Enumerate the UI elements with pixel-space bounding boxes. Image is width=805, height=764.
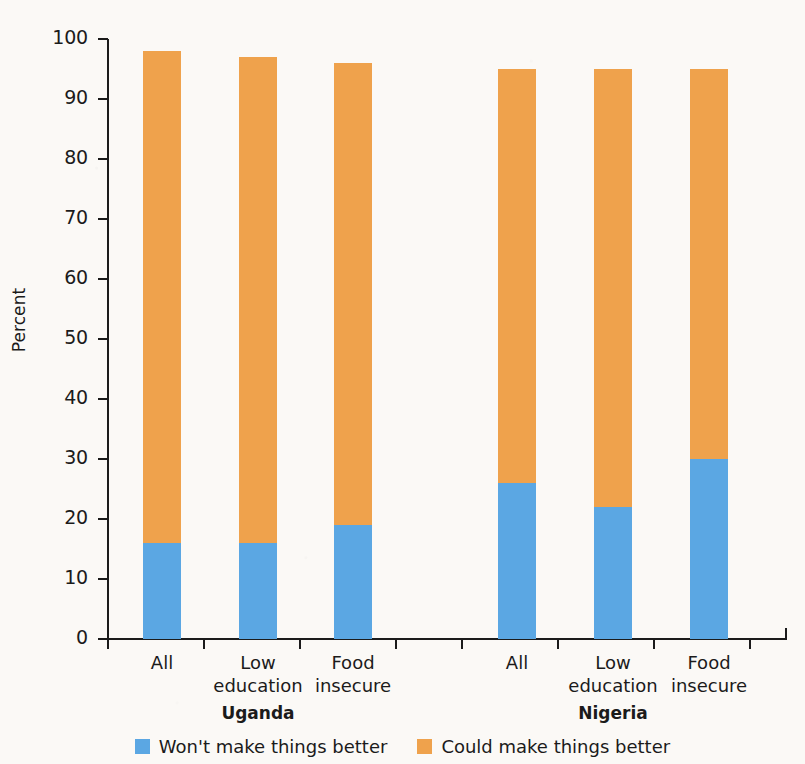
y-axis-tick-label: 0 (28, 626, 88, 648)
y-axis-tick (98, 578, 108, 580)
x-axis-tick (653, 640, 655, 649)
stacked-bar-chart: Percent 0102030405060708090100 AllLowedu… (0, 0, 805, 764)
bar-segment-could-make-things-better (334, 63, 372, 525)
stacked-bar (143, 51, 181, 639)
category-label-line: insecure (288, 674, 418, 697)
y-axis-tick-label: 20 (28, 506, 88, 528)
bar-segment-could-make-things-better (143, 51, 181, 543)
y-axis-tick (98, 458, 108, 460)
x-axis-tick (395, 640, 397, 649)
y-axis-tick (98, 518, 108, 520)
y-axis-tick-label: 60 (28, 266, 88, 288)
y-axis-tick-label: 100 (28, 26, 88, 48)
y-axis-tick (98, 218, 108, 220)
x-axis-end-cap (785, 628, 787, 639)
x-axis-line (107, 638, 787, 640)
y-axis-tick-label: 30 (28, 446, 88, 468)
legend-label: Won't make things better (159, 736, 388, 757)
category-label-line: Food (288, 651, 418, 674)
stacked-bar (594, 69, 632, 639)
y-axis-tick-label: 40 (28, 386, 88, 408)
bar-segment-could-make-things-better (594, 69, 632, 507)
bar-segment-wont-make-things-better (498, 483, 536, 639)
y-axis-tick (98, 278, 108, 280)
category-label-line: insecure (644, 674, 774, 697)
legend-color-swatch (135, 739, 150, 754)
stacked-bar (334, 63, 372, 639)
bar-segment-could-make-things-better (239, 57, 277, 543)
category-label-line: Food (644, 651, 774, 674)
x-axis-tick (749, 640, 751, 649)
bar-segment-could-make-things-better (690, 69, 728, 459)
x-axis-tick (461, 640, 463, 649)
legend-label: Could make things better (441, 736, 670, 757)
bar-segment-could-make-things-better (498, 69, 536, 483)
legend-color-swatch (417, 739, 432, 754)
bar-segment-wont-make-things-better (594, 507, 632, 639)
chart-legend: Won't make things betterCould make thing… (0, 736, 805, 757)
bar-segment-wont-make-things-better (334, 525, 372, 639)
x-axis-tick (203, 640, 205, 649)
y-axis-tick (98, 398, 108, 400)
x-axis-group-label: Nigeria (493, 703, 733, 723)
stacked-bar (498, 69, 536, 639)
x-axis-tick (557, 640, 559, 649)
bar-segment-wont-make-things-better (143, 543, 181, 639)
y-axis-tick (98, 38, 108, 40)
y-axis-tick-label: 70 (28, 206, 88, 228)
y-axis-title: Percent (9, 275, 29, 365)
y-axis-tick (98, 158, 108, 160)
x-axis-tick (299, 640, 301, 649)
legend-item: Won't make things better (135, 736, 388, 757)
y-axis-tick (98, 98, 108, 100)
x-axis-group-label: Uganda (138, 703, 378, 723)
y-axis-tick-label: 10 (28, 566, 88, 588)
y-axis-tick-label: 90 (28, 86, 88, 108)
bar-segment-wont-make-things-better (239, 543, 277, 639)
stacked-bar (690, 69, 728, 639)
legend-item: Could make things better (417, 736, 670, 757)
stacked-bar (239, 57, 277, 639)
bar-segment-wont-make-things-better (690, 459, 728, 639)
y-axis-tick-label: 50 (28, 326, 88, 348)
paper-grain-texture (0, 0, 805, 764)
x-axis-tick (107, 640, 109, 649)
x-axis-category-label: Foodinsecure (288, 651, 418, 697)
y-axis-tick (98, 338, 108, 340)
y-axis-tick-label: 80 (28, 146, 88, 168)
x-axis-category-label: Foodinsecure (644, 651, 774, 697)
